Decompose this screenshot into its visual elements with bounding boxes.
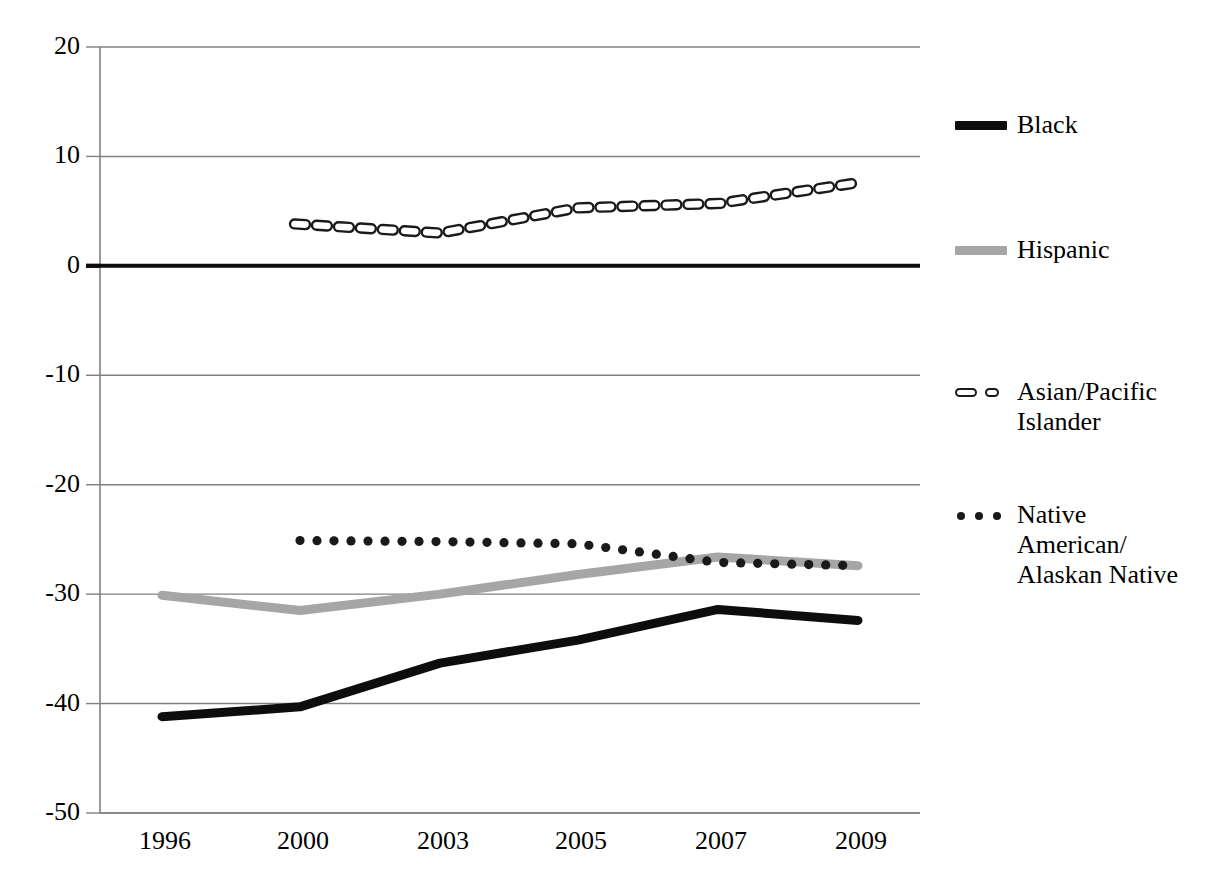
x-axis-tick-label: 2005	[555, 827, 607, 855]
dotted-line-swatch	[955, 502, 1007, 528]
solid-black-line-swatch	[955, 112, 1007, 138]
legend-label: Native American/ Alaskan Native	[1017, 500, 1178, 590]
legend-entry[interactable]: Asian/Pacific Islander	[955, 377, 1157, 437]
x-axis-tick-label: 1996	[139, 827, 191, 855]
solid-gray-line-swatch	[955, 237, 1007, 263]
swatch-dot	[993, 512, 1001, 520]
legend-label: Hispanic	[1017, 235, 1109, 265]
swatch-bar	[955, 246, 1007, 255]
swatch-bar	[955, 121, 1007, 130]
legend-label: Black	[1017, 110, 1078, 140]
legend-entry[interactable]: Hispanic	[955, 235, 1109, 265]
chart-figure: 20100-10-20-30-40-50 1996200020032005200…	[0, 0, 1206, 893]
swatch-dot	[957, 512, 965, 520]
swatch-dash	[985, 388, 999, 397]
swatch-dot	[975, 512, 983, 520]
figure-caption	[8, 872, 1108, 893]
x-axis-tick-label: 2009	[835, 827, 887, 855]
x-axis-tick-label: 2007	[695, 827, 747, 855]
swatch-dash	[955, 388, 977, 397]
legend-label: Asian/Pacific Islander	[1017, 377, 1157, 437]
x-axis-tick-label: 2003	[417, 827, 469, 855]
dashed-line-swatch	[955, 379, 1007, 405]
legend-entry[interactable]: Native American/ Alaskan Native	[955, 500, 1178, 590]
legend-entry[interactable]: Black	[955, 110, 1078, 140]
x-axis-tick-label: 2000	[277, 827, 329, 855]
